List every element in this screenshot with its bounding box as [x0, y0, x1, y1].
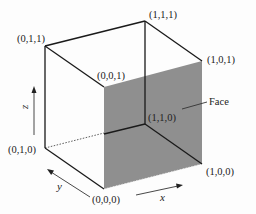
edge-011-to-111	[45, 21, 145, 46]
edge-010-to-110-dotted	[45, 133, 104, 148]
x-axis-arrowhead	[176, 184, 183, 189]
vertex-label-101: (1,0,1)	[207, 54, 235, 66]
vertex-label-001: (0,0,1)	[97, 70, 125, 82]
vertex-label-111: (1,1,1)	[149, 9, 177, 21]
edge-011-to-001	[45, 46, 104, 87]
vertex-label-011: (0,1,1)	[17, 33, 45, 45]
vertex-label-010: (0,1,0)	[8, 144, 36, 156]
x-axis-arrow	[136, 186, 178, 195]
cube-diagram: (0,1,1) (1,1,1) (1,0,1) (0,0,1) (1,1,0) …	[0, 0, 256, 214]
face-label: Face	[209, 96, 229, 107]
x-axis-label: x	[159, 191, 165, 203]
edge-010-to-000	[45, 148, 104, 189]
vertex-label-110: (1,1,0)	[148, 112, 176, 124]
edge-111-to-101	[145, 21, 202, 61]
y-axis-label: y	[56, 180, 62, 192]
vertex-label-000: (0,0,0)	[92, 194, 120, 206]
vertex-label-100: (1,0,0)	[206, 166, 234, 178]
y-axis-arrowhead	[47, 169, 54, 175]
z-axis-arrowhead	[32, 86, 37, 93]
z-axis-label: z	[18, 104, 30, 110]
